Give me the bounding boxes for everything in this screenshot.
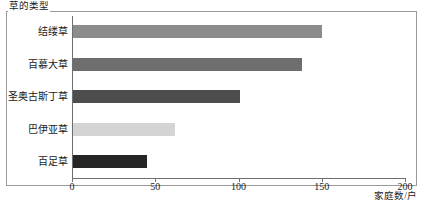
bar-row: 巴伊亚草 <box>72 114 405 147</box>
x-axis-title: 家庭数/户 <box>374 191 417 202</box>
y-axis-line <box>72 16 73 179</box>
category-label: 巴伊亚草 <box>28 120 68 139</box>
category-label: 百足草 <box>38 152 68 171</box>
x-axis-ticks: 050100150200 <box>72 179 406 193</box>
bar-series: 结缕草百慕大草圣奥古斯丁草巴伊亚草百足草 <box>72 16 405 179</box>
x-tick-label: 150 <box>314 181 329 193</box>
bar <box>72 155 147 168</box>
bar-row: 百慕大草 <box>72 49 405 82</box>
bar <box>72 123 175 136</box>
category-label: 结缕草 <box>38 22 68 41</box>
bar <box>72 58 302 71</box>
bar-row: 结缕草 <box>72 16 405 49</box>
x-axis-line <box>72 178 406 179</box>
bar <box>72 90 240 103</box>
plot-area: 结缕草百慕大草圣奥古斯丁草巴伊亚草百足草 <box>72 16 405 179</box>
bar-chart-figure: 草的类型 结缕草百慕大草圣奥古斯丁草巴伊亚草百足草 050100150200 家… <box>0 0 425 212</box>
category-label: 圣奥古斯丁草 <box>8 87 68 106</box>
y-axis-title: 草的类型 <box>8 1 50 12</box>
category-label: 百慕大草 <box>28 55 68 74</box>
x-tick-label: 50 <box>150 181 160 193</box>
bar-row: 圣奥古斯丁草 <box>72 81 405 114</box>
x-tick-label: 0 <box>70 181 75 193</box>
x-tick-label: 100 <box>231 181 246 193</box>
bar-row: 百足草 <box>72 146 405 179</box>
bar <box>72 25 322 38</box>
